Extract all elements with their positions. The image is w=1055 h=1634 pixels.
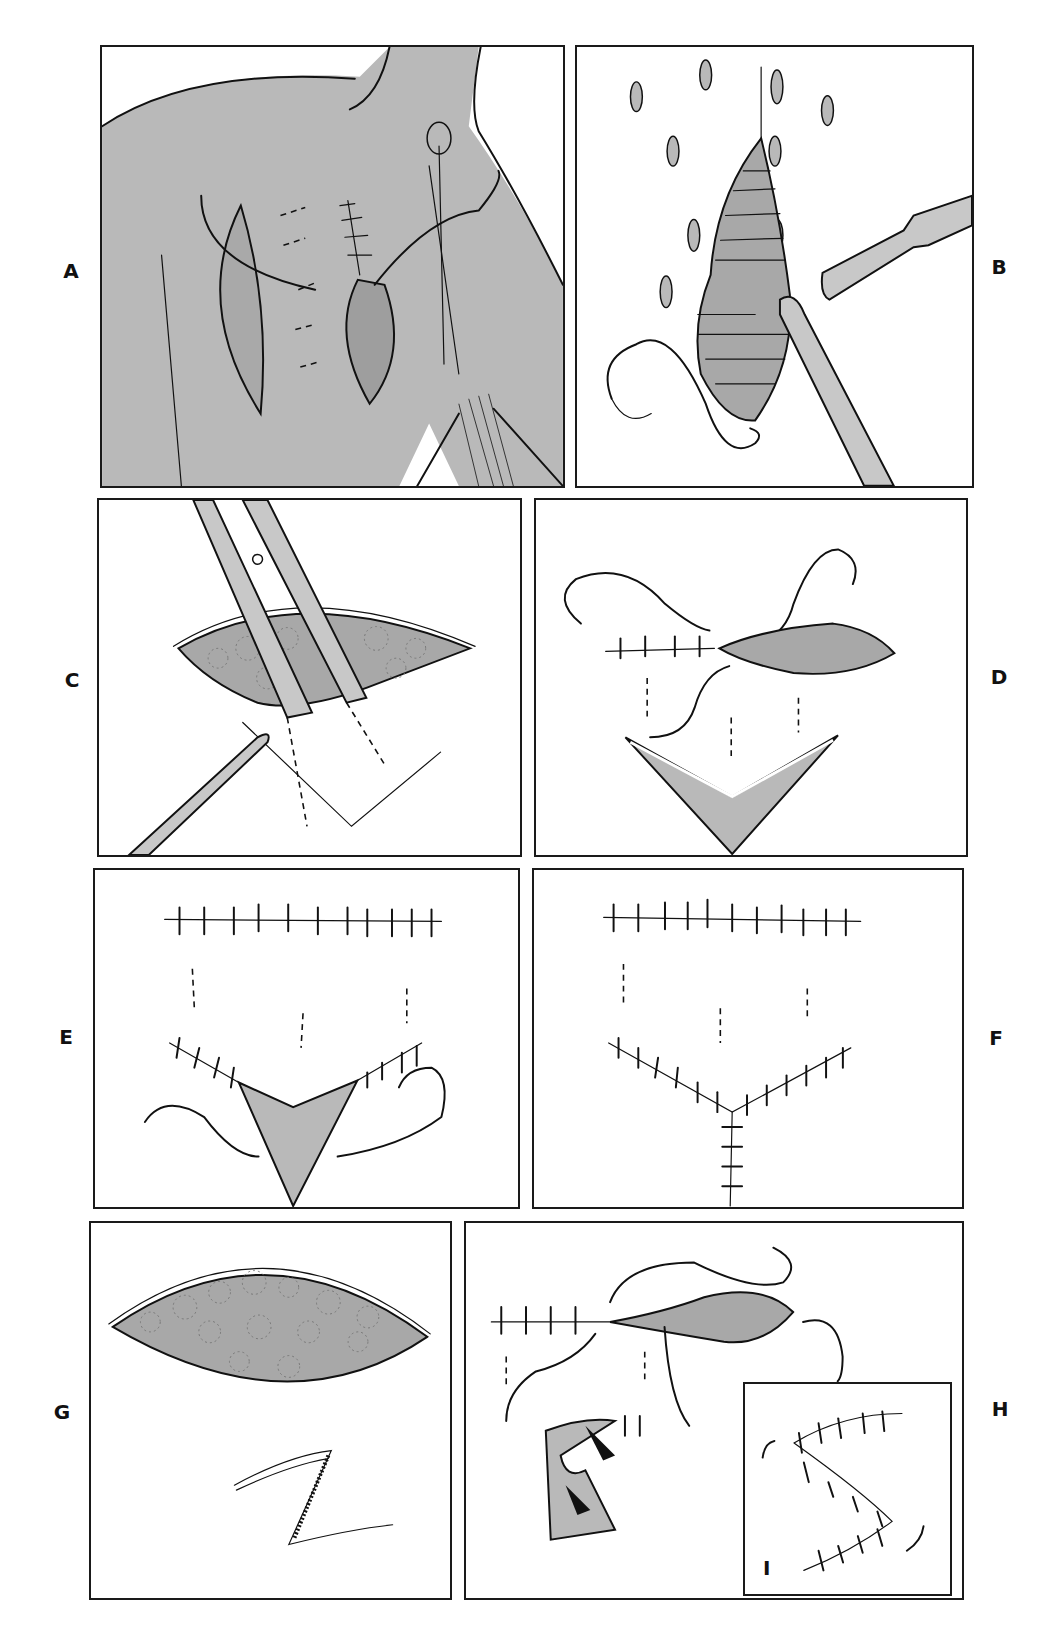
panel-h: I (464, 1221, 964, 1600)
panel-label-f: F (989, 1028, 1003, 1048)
panel-label-h: H (992, 1399, 1009, 1419)
shoulder-illustration (102, 47, 563, 486)
panel-label-e: E (59, 1027, 73, 1047)
z-plasty-incision-illustration (91, 1223, 450, 1598)
panel-c (97, 498, 522, 857)
panel-label-b: B (991, 257, 1006, 277)
panel-b (575, 45, 974, 488)
page-header-fragment (875, 0, 1055, 10)
panel-f (532, 868, 964, 1209)
undermining-illustration (99, 500, 520, 855)
closure-v-defect-illustration (536, 500, 966, 855)
panel-d (534, 498, 968, 857)
panel-a (100, 45, 565, 488)
panel-label-g: G (54, 1402, 70, 1422)
v-flap-advancement-illustration (95, 870, 518, 1207)
panel-e (93, 868, 520, 1209)
panel-label-d: D (991, 667, 1008, 687)
panel-label-c: C (65, 670, 80, 690)
retraction-illustration (577, 47, 972, 486)
panel-label-a: A (63, 261, 78, 281)
panel-g (89, 1221, 452, 1600)
panel-label-i: I (763, 1556, 770, 1580)
panel-i-inset: I (743, 1382, 952, 1596)
v-y-closure-illustration (534, 870, 962, 1207)
s-shaped-closure-illustration (745, 1384, 950, 1594)
